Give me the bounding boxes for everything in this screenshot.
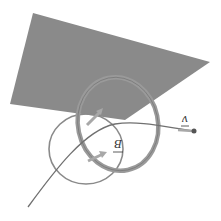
diagram-canvas: B v bbox=[0, 0, 221, 221]
diagram-svg: B v bbox=[0, 0, 221, 221]
velocity-vector bbox=[178, 130, 193, 131]
velocity-label: v bbox=[181, 113, 188, 126]
plane bbox=[10, 13, 210, 120]
velocity-vector-head bbox=[192, 129, 197, 134]
magnetic-field-label: B bbox=[114, 137, 123, 150]
